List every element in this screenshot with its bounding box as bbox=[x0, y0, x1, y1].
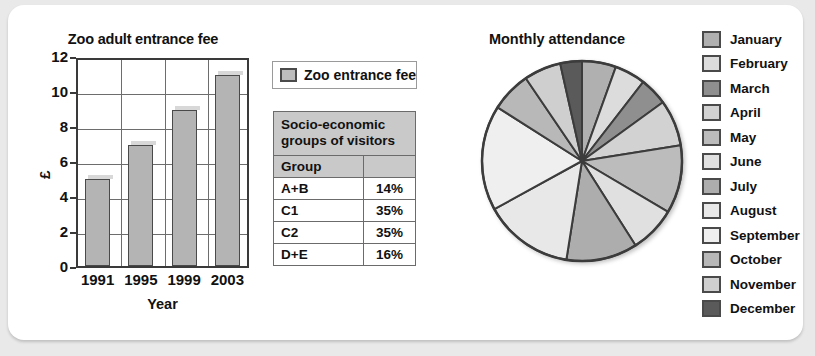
pie-legend-item: December bbox=[702, 297, 803, 322]
table-row: A+B14% bbox=[274, 177, 415, 199]
bar-chart-y-tick-4: 4 bbox=[28, 188, 68, 205]
legend-swatch-august bbox=[702, 202, 721, 219]
pie-legend-item: July bbox=[702, 174, 803, 199]
table-header-value bbox=[363, 156, 415, 177]
legend-label-february: February bbox=[730, 56, 788, 71]
bar-chart-column-divider bbox=[121, 60, 122, 266]
pie-legend-item: February bbox=[702, 52, 803, 77]
bar-chart: Zoo adult entrance fee £ 121086420 19911… bbox=[14, 19, 272, 319]
legend-swatch-december bbox=[702, 300, 721, 317]
legend-swatch-october bbox=[702, 251, 721, 268]
bar-chart-y-tick-0: 0 bbox=[28, 258, 68, 275]
pie-legend-item: March bbox=[702, 76, 803, 101]
legend-swatch-june bbox=[702, 153, 721, 170]
pie-chart-legend: JanuaryFebruaryMarchAprilMayJuneJulyAugu… bbox=[702, 27, 803, 321]
pie-legend-item: April bbox=[702, 101, 803, 126]
bar-chart-y-tick-mark bbox=[70, 92, 76, 94]
pie-chart: Monthly attendance bbox=[422, 19, 702, 329]
legend-swatch-january bbox=[702, 31, 721, 48]
pie-legend-item: November bbox=[702, 272, 803, 297]
bar-chart-title: Zoo adult entrance fee bbox=[14, 31, 272, 47]
pie-chart-graphic bbox=[481, 60, 683, 262]
table-caption: Socio-economic groups of visitors bbox=[274, 112, 415, 155]
pie-legend-item: May bbox=[702, 125, 803, 150]
table-cell-percentage: 35% bbox=[363, 222, 415, 243]
bar-chart-y-tick-mark bbox=[70, 267, 76, 269]
bar-chart-column-divider bbox=[208, 60, 209, 266]
legend-label-november: November bbox=[730, 277, 796, 292]
pie-legend-item: October bbox=[702, 248, 803, 273]
legend-label-march: March bbox=[730, 81, 770, 96]
pie-legend-item: January bbox=[702, 27, 803, 52]
legend-label-september: September bbox=[730, 228, 800, 243]
table-body: A+B14%C135%C235%D+E16% bbox=[274, 177, 415, 265]
table-row: C235% bbox=[274, 221, 415, 243]
bar-chart-y-tick-mark bbox=[70, 197, 76, 199]
bar-2003 bbox=[215, 75, 240, 266]
bar-chart-y-tick-8: 8 bbox=[28, 118, 68, 135]
bar-chart-y-tick-mark bbox=[70, 162, 76, 164]
bar-1995 bbox=[128, 145, 153, 266]
table-cell-group: C1 bbox=[274, 200, 363, 221]
table-cell-group: D+E bbox=[274, 244, 363, 265]
pie-legend-item: June bbox=[702, 150, 803, 175]
bar-chart-y-tick-mark bbox=[70, 127, 76, 129]
legend-swatch-february bbox=[702, 55, 721, 72]
bar-chart-legend: Zoo entrance fee bbox=[272, 61, 417, 89]
legend-label-may: May bbox=[730, 130, 756, 145]
table-row: D+E16% bbox=[274, 243, 415, 265]
legend-swatch-march bbox=[702, 80, 721, 97]
legend-label-october: October bbox=[730, 252, 782, 267]
legend-label-july: July bbox=[730, 179, 757, 194]
bar-chart-y-tick-12: 12 bbox=[28, 48, 68, 65]
pie-legend-item: September bbox=[702, 223, 803, 248]
table-cell-percentage: 35% bbox=[363, 200, 415, 221]
figure-card: Zoo adult entrance fee £ 121086420 19911… bbox=[8, 5, 803, 340]
legend-swatch-september bbox=[702, 227, 721, 244]
table-cell-group: C2 bbox=[274, 222, 363, 243]
bar-1991 bbox=[85, 179, 110, 266]
bar-chart-x-axis-label: Year bbox=[76, 296, 249, 312]
bar-chart-y-tick-mark bbox=[70, 57, 76, 59]
legend-label-june: June bbox=[730, 154, 762, 169]
legend-label-december: December bbox=[730, 301, 795, 316]
table-cell-percentage: 14% bbox=[363, 178, 415, 199]
bar-chart-y-tick-6: 6 bbox=[28, 153, 68, 170]
legend-label-april: April bbox=[730, 105, 761, 120]
table-header-row: Group bbox=[274, 155, 415, 177]
bar-1999 bbox=[172, 110, 197, 266]
legend-swatch-april bbox=[702, 104, 721, 121]
bar-chart-x-tick-2003: 2003 bbox=[201, 271, 253, 288]
legend-swatch-zoo-entrance-fee bbox=[280, 68, 297, 82]
legend-label-january: January bbox=[730, 32, 782, 47]
bar-chart-y-axis-label: £ bbox=[36, 171, 53, 179]
legend-label-zoo-entrance-fee: Zoo entrance fee bbox=[304, 67, 416, 83]
bar-chart-column-divider bbox=[165, 60, 166, 266]
pie-legend-item: August bbox=[702, 199, 803, 224]
legend-label-august: August bbox=[730, 203, 777, 218]
pie-chart-title: Monthly attendance bbox=[422, 31, 692, 47]
legend-swatch-november bbox=[702, 276, 721, 293]
table-cell-group: A+B bbox=[274, 178, 363, 199]
bar-chart-y-tick-10: 10 bbox=[28, 83, 68, 100]
table-row: C135% bbox=[274, 199, 415, 221]
bar-chart-y-tick-mark bbox=[70, 232, 76, 234]
legend-swatch-july bbox=[702, 178, 721, 195]
legend-swatch-may bbox=[702, 129, 721, 146]
table-header-group: Group bbox=[274, 156, 363, 177]
table-cell-percentage: 16% bbox=[363, 244, 415, 265]
socio-economic-table: Socio-economic groups of visitors Group … bbox=[273, 111, 416, 266]
bar-chart-y-tick-2: 2 bbox=[28, 223, 68, 240]
